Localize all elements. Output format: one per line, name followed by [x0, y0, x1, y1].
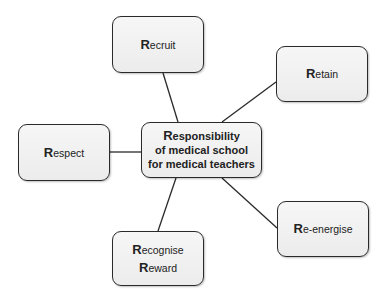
center-line-1: Responsibility — [163, 129, 240, 143]
cap-letter: R — [140, 37, 149, 52]
node-respect-label: Respect — [44, 146, 84, 160]
connector-recruit — [163, 73, 178, 122]
cap-letter: R — [293, 221, 302, 236]
node-respect: Respect — [18, 124, 110, 181]
node-reenergise: Re-energise — [277, 201, 369, 257]
connector-reenergise — [222, 178, 277, 228]
label-rest: etain — [315, 68, 338, 80]
node-retain: Retain — [276, 46, 368, 102]
node-recruit: Recruit — [112, 16, 204, 73]
node-recruit-label: Recruit — [140, 38, 175, 52]
cap-letter: R — [306, 66, 315, 81]
label-rest: eward — [148, 262, 177, 274]
node-reenergise-label: Re-energise — [293, 222, 352, 236]
cap-letter: R — [44, 145, 53, 160]
connector-retain — [222, 82, 276, 122]
node-retain-label: Retain — [306, 67, 338, 81]
center-line-3: for medical teachers — [148, 157, 255, 171]
node-recognise-reward: Recognise Reward — [112, 231, 204, 286]
label-rest: esponsibility — [173, 130, 240, 142]
label-rest: espect — [53, 147, 84, 159]
cap-letter: R — [163, 128, 172, 143]
center-line-2: of medical school — [155, 143, 248, 157]
node-center: Responsibility of medical school for med… — [141, 122, 262, 178]
label-rest: e-energise — [303, 223, 353, 235]
connector-recognise — [158, 178, 176, 231]
diagram-canvas: Recruit Retain Respect Responsibility of… — [0, 0, 388, 300]
cap-letter: R — [132, 242, 141, 257]
label-rest: ecognise — [142, 244, 184, 256]
label-rest: ecruit — [150, 39, 176, 51]
cap-letter: R — [139, 260, 148, 275]
node-recognise-label: Recognise — [132, 241, 183, 259]
node-reward-label: Reward — [139, 259, 177, 277]
